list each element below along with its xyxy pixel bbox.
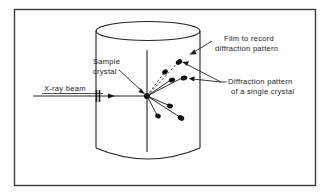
label-sample-crystal-line1: Sample — [93, 57, 120, 66]
label-xray-beam: X-ray beam — [44, 84, 86, 93]
label-diffraction-line2: of a single crystal — [231, 87, 294, 96]
diagram-canvas: X-ray beam Sample crystal Film to record… — [0, 0, 329, 195]
label-film-line2: diffraction pattern — [215, 44, 278, 53]
figure-container: X-ray beam Sample crystal Film to record… — [0, 0, 329, 195]
label-diffraction-line1: Diffraction pattern — [228, 77, 293, 86]
label-film-line1: Film to record — [224, 34, 274, 43]
label-sample-crystal-line2: crystal — [93, 67, 117, 76]
